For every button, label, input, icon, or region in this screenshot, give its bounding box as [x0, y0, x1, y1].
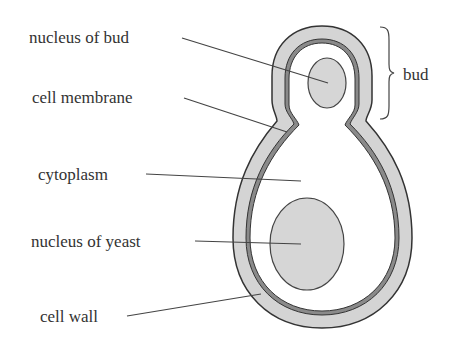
- label-cell-membrane: cell membrane: [32, 88, 133, 107]
- label-cytoplasm: cytoplasm: [38, 165, 108, 184]
- label-bud: bud: [403, 65, 429, 84]
- leader-cell-wall: [127, 294, 261, 316]
- label-cell-wall: cell wall: [40, 307, 98, 326]
- label-nucleus-of-yeast: nucleus of yeast: [31, 232, 141, 251]
- bud-brace: [380, 27, 394, 119]
- label-nucleus-of-bud: nucleus of bud: [29, 28, 130, 47]
- yeast-cell-diagram: nucleus of bud cell membrane cytoplasm n…: [0, 0, 471, 352]
